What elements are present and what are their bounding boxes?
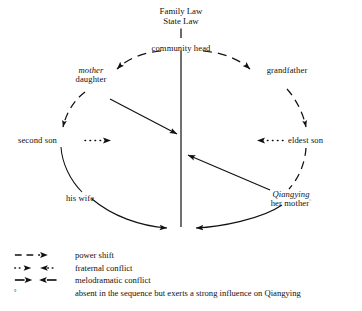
title-line-family-law: Family Law	[160, 6, 203, 16]
melodramatic-arrow-daughter-to-axis	[110, 99, 177, 134]
legend-item-fraternal-conflict: fraternal conflict	[13, 262, 353, 275]
degree-marker-icon: °	[14, 289, 16, 295]
node-daughter-label: daughter	[58, 75, 124, 84]
node-his-wife-label: his wife	[52, 194, 108, 203]
dashed-arrow-right-icon	[13, 249, 71, 262]
arc-second-son-to-his-wife	[61, 147, 82, 192]
node-second-son-label: second son	[18, 136, 84, 145]
power-shift-arc-to-second-son	[63, 92, 85, 127]
node-eldest-son-label: eldest son	[288, 136, 354, 145]
figure-canvas: Family Law State Law community head moth…	[0, 0, 362, 311]
power-shift-arc-to-eldest-son	[287, 89, 306, 127]
legend: power shift fraternal conflict melodrama…	[13, 249, 353, 299]
power-shift-arc-to-grandfather	[203, 51, 250, 69]
legend-label-power-shift: power shift	[75, 250, 114, 260]
node-his-wife: his wife	[52, 194, 108, 203]
melodramatic-arrow-qiangying-to-axis	[188, 155, 270, 190]
fraternal-conflict-arrow-left-side	[85, 138, 111, 144]
legend-label-fraternal-conflict: fraternal conflict	[75, 263, 133, 273]
page-title: Family Law State Law	[0, 7, 362, 27]
legend-label-footnote: absent in the sequence but exerts a stro…	[75, 288, 301, 298]
power-shift-arc-to-qiangying	[289, 148, 306, 189]
dotted-arrow-pair-icon	[13, 262, 71, 275]
node-her-mother-text: her mother	[271, 198, 309, 208]
legend-label-melodramatic-conflict: melodramatic conflict	[75, 275, 151, 285]
legend-item-footnote: ° absent in the sequence but exerts a st…	[13, 287, 353, 300]
node-mother-daughter: mother daughter	[58, 66, 124, 85]
legend-item-melodramatic-conflict: melodramatic conflict	[13, 274, 353, 287]
footnote-marker-icon: °	[309, 198, 311, 203]
solid-arrow-pair-icon	[13, 274, 71, 287]
node-grandfather-label: grandfather	[252, 66, 322, 75]
node-second-son: second son	[18, 136, 84, 145]
node-community-head-label: community head	[140, 44, 222, 53]
legend-item-power-shift: power shift	[13, 249, 353, 262]
node-community-head: community head	[140, 44, 222, 53]
node-grandfather: grandfather	[252, 66, 322, 75]
node-her-mother-label: her mother°	[256, 199, 326, 208]
node-eldest-son: eldest son	[288, 136, 354, 145]
node-qiangying-her-mother: Qiangying her mother°	[256, 190, 326, 209]
fraternal-conflict-arrow-right-side	[257, 138, 283, 144]
title-line-state-law: State Law	[163, 16, 198, 26]
melodramatic-arrow-his-wife-to-axis	[92, 199, 167, 228]
